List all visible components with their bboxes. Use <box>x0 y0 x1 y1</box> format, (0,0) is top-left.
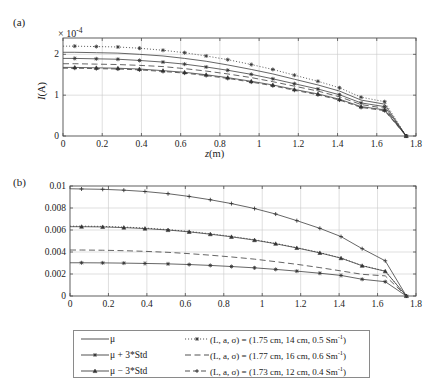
plot-panel-b: z(m) Eind(V/m) 00.20.40.60.811.21.41.61.… <box>0 160 444 325</box>
x-tick-label: 1.6 <box>371 139 383 149</box>
legend-row: μ + 3*Std (L, a, σ) = (1.77 cm, 16 cm, 0… <box>74 347 369 363</box>
legend-label-mu: μ <box>110 334 184 344</box>
legend-label-case2: (L, a, σ) = (1.77 cm, 16 cm, 0.6 Sm-1) <box>210 349 346 361</box>
legend-row: μ (L, a, σ) = (1.75 cm, 14 cm, 0.5 Sm-1) <box>74 331 369 347</box>
legend-line-sample-case3 <box>184 364 210 378</box>
y-tick-label: 0.006 <box>0 225 66 235</box>
y-tick-label: 0 <box>0 131 59 141</box>
y-tick-label: 0.008 <box>0 203 66 213</box>
x-tick-label: 0.2 <box>103 299 115 309</box>
x-tick-label: 0.4 <box>141 299 153 309</box>
plot-panel-a: z(m) I(A) 00.20.40.60.811.21.41.61.8012 <box>0 0 444 170</box>
x-tick-label: 1 <box>260 299 265 309</box>
x-tick-label: 0.6 <box>175 139 187 149</box>
y-tick-label: 0.004 <box>0 247 66 257</box>
x-tick-label: 0 <box>61 139 66 149</box>
legend-line-sample-case2 <box>184 348 210 362</box>
legend-row: μ − 3*Std (L, a, σ) = (1.73 cm, 12 cm, 0… <box>74 363 369 379</box>
x-tick-label: 0.6 <box>179 299 191 309</box>
y-tick-label: 0.002 <box>0 269 66 279</box>
x-tick-label: 0.8 <box>214 139 226 149</box>
x-tick-label: 0 <box>68 299 73 309</box>
x-tick-label: 1.6 <box>372 299 384 309</box>
legend-line-sample-case1 <box>184 332 210 346</box>
legend-label-mu-plus-3std: μ + 3*Std <box>110 350 184 360</box>
x-tick-label: 1.8 <box>410 139 422 149</box>
legend-label-case1: (L, a, σ) = (1.75 cm, 14 cm, 0.5 Sm-1) <box>210 333 346 345</box>
y-tick-label: 0.01 <box>0 181 66 191</box>
x-tick-label: 1.4 <box>333 299 345 309</box>
x-tick-label: 0.2 <box>96 139 108 149</box>
x-tick-label: 1.8 <box>410 299 422 309</box>
legend-line-sample-mu-plus-3std <box>80 348 110 362</box>
legend-label-mu-minus-3std: μ − 3*Std <box>110 366 184 376</box>
figure-root: (a) (b) × 10-4 z(m) I(A) 00.20.40.60.811… <box>0 0 444 390</box>
y-tick-label: 2 <box>0 49 59 59</box>
x-tick-label: 1.4 <box>332 139 344 149</box>
legend-line-sample-mu-minus-3std <box>80 364 110 378</box>
legend-line-sample-mu <box>80 332 110 346</box>
x-tick-label: 1 <box>257 139 262 149</box>
x-tick-label: 1.2 <box>292 139 304 149</box>
x-tick-label: 0.4 <box>136 139 148 149</box>
plot-a-xlabel: z(m) <box>205 148 224 159</box>
y-tick-label: 0 <box>0 291 66 301</box>
legend-label-case3: (L, a, σ) = (1.73 cm, 12 cm, 0.4 Sm-1) <box>210 365 346 377</box>
x-tick-label: 0.8 <box>218 299 230 309</box>
legend: μ (L, a, σ) = (1.75 cm, 14 cm, 0.5 Sm-1)… <box>73 330 370 378</box>
y-tick-label: 1 <box>0 90 59 100</box>
x-tick-label: 1.2 <box>295 299 307 309</box>
